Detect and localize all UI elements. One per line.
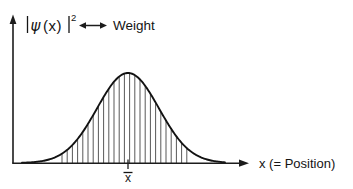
psi-argument: (x) xyxy=(43,17,62,34)
figure-container: ψ (x) 2 Weight x (= Position) x xyxy=(0,0,353,189)
hatch-fill-group xyxy=(62,74,187,163)
connector-arrowhead-right-icon xyxy=(100,22,107,29)
gaussian-curve xyxy=(22,73,225,163)
y-axis-arrowhead-icon xyxy=(10,15,17,25)
x-axis-arrowhead-icon xyxy=(239,160,249,167)
weight-connector-arrow-icon xyxy=(79,22,107,29)
mean-label: x xyxy=(124,171,133,185)
squared-exponent: 2 xyxy=(71,12,76,23)
connector-arrowhead-left-icon xyxy=(79,22,86,29)
x-axis-label: x (= Position) xyxy=(259,156,335,171)
psi-symbol: ψ xyxy=(31,17,42,35)
y-axis-label: ψ (x) 2 xyxy=(28,12,77,35)
gaussian-weight-figure: ψ (x) 2 Weight x (= Position) x xyxy=(0,0,353,189)
weight-label: Weight xyxy=(113,18,155,33)
